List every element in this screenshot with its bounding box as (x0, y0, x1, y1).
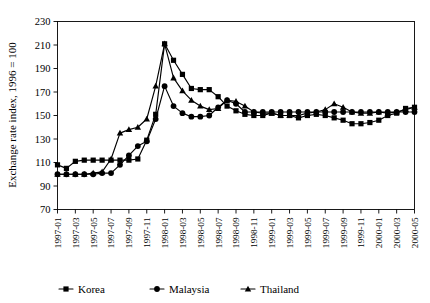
data-point-marker (198, 87, 203, 92)
y-axis-title-group: Exchange rate index, 1996 = 100 (6, 42, 18, 188)
data-point-marker (171, 58, 176, 63)
data-point-marker (180, 110, 186, 116)
y-tick-label: 210 (35, 40, 51, 51)
data-point-marker (242, 103, 248, 109)
data-point-marker (207, 87, 212, 92)
x-tick-label: 2000-03 (392, 217, 402, 248)
y-tick-label: 130 (35, 134, 51, 145)
data-point-marker (55, 162, 60, 167)
series-malaysia (55, 83, 418, 177)
y-tick-label: 170 (35, 87, 51, 98)
x-tick-label: 1997-07 (106, 217, 116, 248)
data-point-marker (331, 100, 337, 106)
chart-legend: KoreaMalaysiaThailand (59, 283, 300, 295)
data-point-marker (358, 121, 363, 126)
data-point-marker (63, 286, 68, 291)
data-point-marker (224, 104, 229, 109)
data-point-marker (340, 109, 346, 115)
data-series-layer (54, 41, 417, 178)
y-tick-label: 110 (35, 157, 50, 168)
x-tick-label: 1999-09 (339, 217, 349, 248)
x-tick-label: 1997-03 (71, 217, 81, 248)
x-tick-label: 1997-01 (53, 217, 63, 248)
x-tick-label: 1999-05 (303, 217, 313, 248)
data-point-marker (171, 103, 177, 109)
data-point-marker (153, 116, 159, 122)
data-point-marker (349, 121, 354, 126)
x-tick-label: 1998-09 (231, 217, 241, 248)
data-point-marker (180, 72, 185, 77)
x-tick-label: 1997-11 (142, 217, 152, 248)
legend-label: Korea (78, 283, 105, 295)
data-point-marker (233, 108, 238, 113)
data-point-marker (189, 86, 194, 91)
data-point-marker (73, 159, 78, 164)
y-tick-label: 90 (40, 181, 51, 192)
data-point-marker (135, 156, 140, 161)
data-point-marker (170, 75, 176, 81)
y-axis-ticks: 7090110130150170190210230 (35, 16, 58, 215)
chart-container: Exchange rate index, 1996 = 100 70901101… (0, 0, 430, 303)
x-tick-label: 2000-05 (410, 217, 420, 248)
x-tick-label: 1999-11 (356, 217, 366, 248)
data-point-marker (216, 94, 221, 99)
legend-item-thailand[interactable]: Thailand (241, 283, 300, 295)
data-point-marker (367, 120, 372, 125)
x-tick-label: 1997-05 (89, 217, 99, 248)
y-axis-title: Exchange rate index, 1996 = 100 (6, 42, 18, 188)
data-point-marker (376, 118, 381, 123)
x-tick-label: 1999-03 (285, 217, 295, 248)
x-tick-label: 1998-07 (214, 217, 224, 248)
x-tick-label: 1999-01 (267, 217, 277, 248)
x-tick-label: 1999-07 (321, 217, 331, 248)
x-tick-label: 2000-01 (374, 217, 384, 248)
legend-item-malaysia[interactable]: Malaysia (150, 283, 209, 295)
data-point-marker (152, 83, 158, 89)
data-point-marker (412, 109, 418, 115)
data-point-marker (117, 162, 123, 168)
y-tick-label: 190 (35, 63, 51, 74)
y-tick-label: 70 (40, 204, 51, 215)
data-point-marker (144, 116, 150, 122)
legend-label: Thailand (260, 283, 300, 295)
line-chart: Exchange rate index, 1996 = 100 70901101… (0, 0, 430, 303)
data-point-marker (154, 286, 160, 292)
x-axis-ticks: 1997-011997-031997-051997-071997-091997-… (53, 210, 420, 249)
x-tick-label: 1998-05 (196, 217, 206, 248)
y-tick-label: 230 (35, 16, 51, 27)
data-point-marker (126, 153, 132, 159)
data-point-marker (108, 170, 114, 176)
data-point-marker (206, 113, 212, 119)
x-tick-label: 1998-01 (160, 217, 170, 248)
data-point-marker (331, 109, 337, 115)
x-tick-label: 1998-03 (178, 217, 188, 248)
data-point-marker (197, 114, 203, 120)
data-point-marker (135, 143, 141, 149)
data-point-marker (197, 103, 203, 109)
x-tick-label: 1998-11 (249, 217, 259, 248)
data-point-marker (91, 158, 96, 163)
data-point-marker (332, 115, 337, 120)
data-point-marker (82, 158, 87, 163)
data-point-marker (188, 114, 194, 120)
x-tick-label: 1997-09 (124, 217, 134, 248)
data-point-marker (341, 118, 346, 123)
y-tick-label: 150 (35, 110, 51, 121)
legend-item-korea[interactable]: Korea (59, 283, 105, 295)
data-point-marker (100, 158, 105, 163)
data-point-marker (242, 109, 248, 115)
data-point-marker (162, 83, 168, 89)
legend-label: Malaysia (169, 283, 209, 295)
data-point-marker (322, 106, 328, 112)
data-point-marker (144, 138, 150, 144)
data-point-marker (64, 166, 69, 171)
